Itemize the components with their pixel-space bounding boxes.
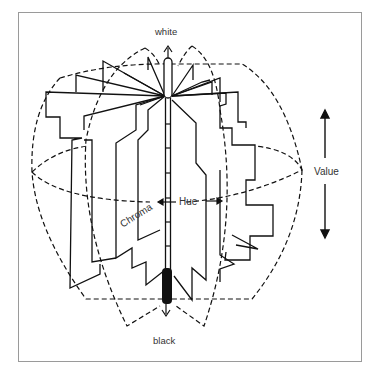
value-label: Value <box>314 166 339 177</box>
hue-label: Hue <box>179 196 197 207</box>
value-axis <box>162 46 172 316</box>
white-label: white <box>155 26 177 37</box>
black-label: black <box>153 335 175 346</box>
chroma-staircases <box>46 57 273 300</box>
munsell-solid-drawing <box>0 0 376 380</box>
